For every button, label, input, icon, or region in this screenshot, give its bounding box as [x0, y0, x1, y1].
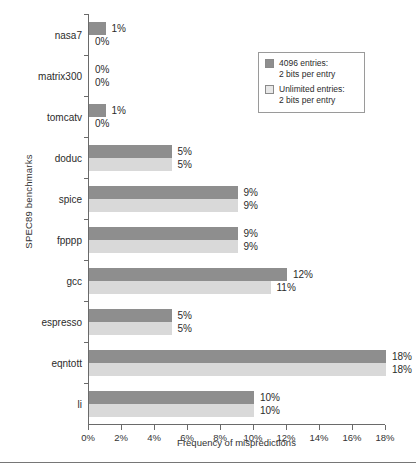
bar-value-label: 9% — [244, 200, 258, 211]
y-tick — [84, 260, 89, 261]
y-tick — [84, 96, 89, 97]
y-tick-label: espresso — [41, 316, 82, 327]
bar-group: spice9%9% — [89, 186, 385, 212]
chart-legend: 4096 entries:2 bits per entryUnlimited e… — [258, 52, 365, 113]
bar-row: 5% — [89, 158, 385, 171]
bar-value-label: 11% — [277, 282, 296, 293]
bar-group: gcc12%11% — [89, 268, 385, 294]
legend-label-line2: 2 bits per entry — [279, 95, 345, 106]
bar — [89, 199, 238, 212]
bar-group: eqntott18%18% — [89, 350, 385, 376]
bar — [89, 391, 254, 404]
bar-row: 5% — [89, 145, 385, 158]
legend-entry: 4096 entries:2 bits per entry — [265, 58, 358, 80]
y-tick-label: nasa7 — [55, 29, 82, 40]
legend-entry: Unlimited entries:2 bits per entry — [265, 84, 358, 106]
bar-value-label: 0% — [95, 64, 109, 75]
legend-label-line1: Unlimited entries: — [279, 84, 345, 95]
y-tick — [84, 219, 89, 220]
bar-value-label: 5% — [178, 310, 192, 321]
y-tick-label: tomcatv — [47, 111, 82, 122]
bar-row: 9% — [89, 186, 385, 199]
legend-swatch-icon — [265, 59, 274, 68]
bar-value-label: 18% — [392, 351, 412, 362]
legend-swatch-icon — [265, 85, 274, 94]
x-axis-title: Frequency of mispredictions — [88, 437, 385, 448]
x-tick — [286, 425, 287, 430]
x-tick — [187, 425, 188, 430]
bar-value-label: 5% — [178, 159, 192, 170]
bar-group: doduc5%5% — [89, 145, 385, 171]
y-tick-label: li — [78, 398, 82, 409]
bar-row: 18% — [89, 363, 385, 376]
bar — [89, 363, 386, 376]
bar-value-label: 9% — [244, 241, 258, 252]
bar-row: 12% — [89, 268, 385, 281]
bar-row: 1% — [89, 22, 385, 35]
bar — [89, 240, 238, 253]
bar — [89, 227, 238, 240]
y-tick-label: matrix300 — [38, 70, 82, 81]
legend-label: 4096 entries:2 bits per entry — [279, 58, 335, 80]
bar-row: 5% — [89, 322, 385, 335]
bar — [89, 350, 386, 363]
y-axis-title: SPEC89 benchmarks — [23, 122, 34, 282]
x-tick — [319, 425, 320, 430]
bar — [89, 309, 172, 322]
y-tick-label: gcc — [66, 275, 82, 286]
bar-value-label: 12% — [293, 269, 313, 280]
bar — [89, 104, 106, 117]
footer-divider — [0, 462, 416, 463]
bar-row: 0% — [89, 35, 385, 48]
bar — [89, 22, 106, 35]
legend-label-line2: 2 bits per entry — [279, 69, 335, 80]
x-tick — [385, 425, 386, 430]
y-tick-label: doduc — [55, 152, 82, 163]
bar-row: 11% — [89, 281, 385, 294]
y-tick — [84, 301, 89, 302]
bar — [89, 158, 172, 171]
x-tick — [88, 425, 89, 430]
bar — [89, 145, 172, 158]
bar-group: nasa71%0% — [89, 22, 385, 48]
bar-value-label: 9% — [244, 187, 258, 198]
bar-row: 9% — [89, 199, 385, 212]
y-tick-label: fpppp — [57, 234, 82, 245]
y-tick-label: eqntott — [51, 357, 82, 368]
bar-value-label: 9% — [244, 228, 258, 239]
bar-group: fpppp9%9% — [89, 227, 385, 253]
bar-value-label: 5% — [178, 323, 192, 334]
bar-value-label: 18% — [392, 364, 412, 375]
bar — [89, 268, 287, 281]
bar-group: li10%10% — [89, 391, 385, 417]
bar-value-label: 1% — [112, 105, 126, 116]
bar-value-label: 0% — [95, 36, 109, 47]
bar-value-label: 0% — [95, 118, 109, 129]
y-tick-label: spice — [59, 193, 82, 204]
y-tick — [84, 55, 89, 56]
bar-value-label: 5% — [178, 146, 192, 157]
bar-row: 0% — [89, 117, 385, 130]
bar — [89, 404, 254, 417]
y-tick — [84, 342, 89, 343]
legend-label-line1: 4096 entries: — [279, 58, 335, 69]
x-tick — [154, 425, 155, 430]
bar-row: 5% — [89, 309, 385, 322]
y-tick — [84, 137, 89, 138]
legend-label: Unlimited entries:2 bits per entry — [279, 84, 345, 106]
y-tick — [84, 383, 89, 384]
x-tick — [220, 425, 221, 430]
bar-chart-figure: SPEC89 benchmarks 0%2%4%6%8%10%12%14%16%… — [0, 0, 416, 474]
x-tick — [352, 425, 353, 430]
bar-row: 9% — [89, 227, 385, 240]
bar-value-label: 10% — [260, 392, 280, 403]
y-tick — [84, 178, 89, 179]
bar-group: espresso5%5% — [89, 309, 385, 335]
bar-row: 18% — [89, 350, 385, 363]
x-axis-line — [88, 424, 385, 425]
x-tick — [121, 425, 122, 430]
bar-row: 9% — [89, 240, 385, 253]
bar-row: 10% — [89, 404, 385, 417]
bar — [89, 322, 172, 335]
bar-row: 10% — [89, 391, 385, 404]
